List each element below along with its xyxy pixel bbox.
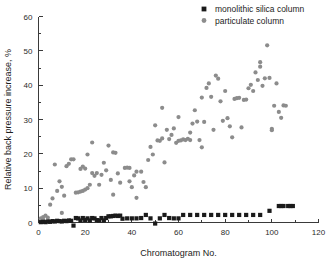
- data-point: [265, 43, 269, 47]
- tick-label-group: 0102030405060020406080100120: [24, 13, 326, 237]
- data-point: [244, 97, 248, 101]
- data-point: [209, 213, 213, 217]
- y-tick-label: 40: [24, 81, 33, 90]
- data-point: [200, 95, 204, 99]
- data-point: [246, 86, 250, 90]
- data-point: [118, 181, 122, 185]
- data-point: [188, 130, 192, 134]
- data-point: [95, 171, 99, 175]
- data-point: [102, 161, 106, 165]
- data-point: [85, 186, 89, 190]
- data-point: [228, 124, 232, 128]
- data-point: [195, 119, 199, 123]
- data-point: [104, 168, 108, 172]
- data-point: [274, 81, 278, 85]
- data-point: [202, 120, 206, 124]
- data-point: [113, 151, 117, 155]
- data-point: [71, 223, 75, 227]
- series-monolithic-silica-column: [39, 204, 295, 228]
- data-point: [134, 170, 138, 174]
- data-point: [209, 95, 213, 99]
- data-point: [251, 89, 255, 93]
- data-point: [148, 145, 152, 149]
- data-point: [111, 193, 115, 197]
- data-point: [230, 135, 234, 139]
- y-axis-title: Relative back pressure increase, %: [3, 49, 13, 190]
- data-point: [223, 89, 227, 93]
- data-point: [279, 116, 283, 120]
- data-point: [230, 213, 234, 217]
- data-point: [221, 119, 225, 123]
- data-point: [130, 185, 134, 189]
- data-point: [69, 219, 73, 223]
- data-point: [237, 96, 241, 100]
- data-point: [223, 213, 227, 217]
- data-point: [67, 162, 71, 166]
- data-point: [249, 83, 253, 87]
- data-point: [181, 213, 185, 217]
- data-point: [197, 138, 201, 142]
- data-point: [258, 213, 262, 217]
- data-point: [134, 216, 138, 220]
- data-point: [148, 216, 152, 220]
- data-point: [151, 152, 155, 156]
- data-point: [141, 180, 145, 184]
- y-tick-label: 0: [28, 219, 33, 228]
- y-tick-label: 30: [24, 116, 33, 125]
- data-point: [90, 140, 94, 144]
- data-point: [176, 216, 180, 220]
- x-tick-label: 0: [36, 228, 41, 237]
- data-point: [55, 189, 59, 193]
- data-point: [281, 204, 285, 208]
- data-point: [88, 183, 92, 187]
- data-point: [260, 84, 264, 88]
- data-point: [139, 170, 143, 174]
- data-point: [146, 158, 150, 162]
- data-point: [272, 104, 276, 108]
- data-point: [172, 126, 176, 130]
- data-point: [270, 128, 274, 132]
- x-axis-title: Chromatogram No.: [140, 248, 217, 258]
- y-tick-label: 10: [24, 184, 33, 193]
- data-point: [256, 78, 260, 82]
- data-point: [60, 211, 64, 215]
- chart-canvas: 0102030405060020406080100120 monolithic …: [0, 0, 331, 267]
- data-point: [202, 213, 206, 217]
- data-point: [188, 138, 192, 142]
- data-point: [195, 213, 199, 217]
- data-point: [165, 128, 169, 132]
- data-point: [225, 116, 229, 120]
- data-point: [134, 196, 138, 200]
- data-point: [46, 216, 50, 220]
- data-point: [277, 110, 281, 114]
- data-point: [258, 60, 262, 64]
- data-point: [83, 166, 87, 170]
- y-tick-label: 60: [24, 13, 33, 22]
- data-point: [127, 179, 131, 183]
- data-point: [167, 216, 171, 220]
- legend-item-label: particulate column: [215, 16, 284, 26]
- y-tick-label: 50: [24, 47, 33, 56]
- data-point: [251, 213, 255, 217]
- x-tick-label: 20: [81, 228, 90, 237]
- data-point: [158, 216, 162, 220]
- data-point: [160, 136, 164, 140]
- data-point: [176, 115, 180, 119]
- data-point: [139, 216, 143, 220]
- data-point: [204, 86, 208, 90]
- data-point: [211, 128, 215, 132]
- x-tick-label: 80: [221, 228, 230, 237]
- data-point: [162, 213, 166, 217]
- data-point: [218, 99, 222, 103]
- data-point: [167, 137, 171, 141]
- data-point: [239, 125, 243, 129]
- series-particulate-column: [39, 43, 288, 222]
- data-point: [60, 185, 64, 189]
- data-point: [169, 133, 173, 137]
- data-point: [267, 209, 271, 213]
- data-point: [99, 173, 103, 177]
- data-point: [153, 123, 157, 127]
- data-point: [62, 194, 66, 198]
- data-point: [190, 122, 194, 126]
- data-point: [125, 216, 129, 220]
